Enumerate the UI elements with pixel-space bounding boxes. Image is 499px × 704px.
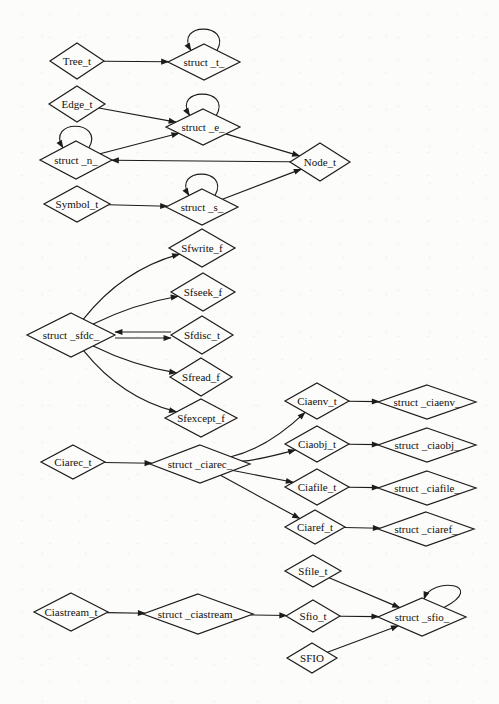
edge-tree_t-to-struct_t	[104, 61, 169, 62]
edge-ciaref_t-to-struct_ciaref	[344, 528, 380, 529]
edge-ciastream_t-to-struct_ciastream	[107, 613, 145, 614]
node-struct_ciaref: struct _ciaref_	[378, 512, 474, 546]
struct_t-label: struct _t_	[183, 56, 225, 68]
edge-struct_n-to-struct_e	[100, 133, 179, 153]
node-sfwrite_f: Sfwrite_f	[169, 229, 235, 267]
sfio_t-label: Sfio_t	[300, 610, 327, 622]
edge-struct_sfdc-to-sfseek_f	[93, 296, 178, 324]
edge-struct_s-to-node_t	[222, 169, 301, 199]
sfile_t-label: Sfile_t	[298, 565, 327, 577]
struct_ciastream-label: struct _ciastream_	[158, 608, 239, 620]
node-symbol_t: Symbol_t	[44, 186, 110, 222]
edge-struct_sfdc-to-sfread_f	[93, 346, 177, 373]
node-sfio_t: Sfio_t	[286, 600, 340, 632]
sfio-label: SFIO	[300, 652, 324, 664]
node-sfile_t: Sfile_t	[285, 555, 341, 587]
edge-edge_t-to-struct_e	[99, 108, 176, 122]
node-ciaenv_t: Ciaenv_t	[285, 383, 349, 419]
edge-struct_e-to-node_t	[226, 134, 300, 156]
struct_sfio-label: struct _sfio_	[395, 611, 450, 623]
edge-sfile_t-to-struct_sfio	[329, 578, 400, 608]
node-sfseek_f: Sfseek_f	[171, 273, 235, 311]
node-sfread_f: Sfread_f	[170, 358, 232, 396]
struct_n-label: struct _n_	[54, 154, 98, 166]
struct_sfdc-label: struct _sfdc_	[43, 329, 100, 341]
sfwrite_f-label: Sfwrite_f	[181, 242, 223, 254]
symbol_t-label: Symbol_t	[56, 198, 99, 210]
node-struct_t: struct _t_	[168, 29, 240, 80]
sfseek_f-label: Sfseek_f	[184, 286, 223, 298]
node_t-label: Node_t	[304, 156, 336, 168]
ciarec_t-label: Ciarec_t	[54, 456, 91, 468]
struct_ciarec-label: struct _ciarec_	[168, 458, 233, 470]
edge-struct_sfdc-to-sfwrite_f	[83, 254, 179, 319]
struct_ciaref-label: struct _ciaref_	[394, 523, 458, 535]
edge-node_t-to-struct_n	[111, 160, 290, 162]
type-dependency-diagram: Tree_tstruct _t_Edge_tstruct _e_struct _…	[0, 0, 499, 704]
node-ciarec_t: Ciarec_t	[41, 445, 105, 479]
ciaobj_t-label: Ciaobj_t	[298, 438, 336, 450]
ciaref_t-label: Ciaref_t	[297, 521, 333, 533]
edge-sfio-to-struct_sfio	[327, 626, 398, 653]
node-struct_s: struct _s_	[166, 174, 238, 225]
edge-struct_ciastream-to-sfio_t	[251, 615, 287, 616]
node-struct_ciastream: struct _ciastream_	[143, 594, 253, 634]
edge-struct_ciarec-to-ciafile_t	[233, 471, 293, 483]
struct_ciaobj-label: struct _ciaobj_	[394, 439, 460, 451]
struct_ciafile-label: struct _ciafile_	[394, 482, 460, 494]
node-edge_t: Edge_t	[49, 86, 105, 122]
nodes-layer: Tree_tstruct _t_Edge_tstruct _e_struct _…	[27, 29, 476, 673]
node-sfio: SFIO	[287, 643, 337, 673]
node-sfdisc_t: Sfdisc_t	[171, 316, 233, 354]
node-struct_ciaenv: struct _ciaenv_	[378, 385, 476, 419]
ciaenv_t-label: Ciaenv_t	[297, 395, 337, 407]
tree_t-label: Tree_t	[63, 55, 91, 67]
edges-layer	[83, 61, 399, 652]
node-struct_e: struct _e_	[166, 94, 240, 145]
edge-symbol_t-to-struct_s	[109, 205, 168, 206]
struct_s-label: struct _s_	[181, 201, 224, 213]
edge_t-label: Edge_t	[61, 98, 92, 110]
sfdisc_t-label: Sfdisc_t	[184, 329, 220, 341]
scanned-page: Tree_tstruct _t_Edge_tstruct _e_struct _…	[0, 0, 499, 704]
edge-ciarec_t-to-struct_ciarec	[104, 463, 152, 464]
edge-struct_ciarec-to-ciaobj_t	[242, 450, 295, 461]
ciastream_t-label: Ciastream_t	[44, 606, 97, 618]
dependency-graph-svg: Tree_tstruct _t_Edge_tstruct _e_struct _…	[0, 0, 499, 704]
node-struct_ciaobj: struct _ciaobj_	[378, 428, 476, 462]
struct_e-label: struct _e_	[181, 121, 225, 133]
sfexcept_f-label: Sfexcept_f	[177, 412, 225, 424]
node-node_t: Node_t	[290, 143, 350, 181]
node-sfexcept_f: Sfexcept_f	[165, 399, 237, 437]
node-ciaobj_t: Ciaobj_t	[285, 426, 349, 462]
node-ciafile_t: Ciafile_t	[285, 469, 349, 505]
node-ciastream_t: Ciastream_t	[34, 593, 108, 631]
sfread_f-label: Sfread_f	[182, 371, 220, 383]
node-struct_n: struct _n_	[40, 126, 112, 179]
node-struct_ciarec: struct _ciarec_	[150, 445, 250, 483]
node-tree_t: Tree_t	[50, 43, 104, 79]
edge-struct_sfdc-to-sfexcept_f	[84, 351, 177, 412]
ciafile_t-label: Ciafile_t	[298, 481, 337, 493]
node-struct_ciafile: struct _ciafile_	[378, 471, 476, 505]
struct_ciaenv-label: struct _ciaenv_	[394, 396, 461, 408]
